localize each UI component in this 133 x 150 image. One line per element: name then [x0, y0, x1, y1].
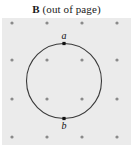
field-out-of-page-dot-icon: [10, 97, 13, 100]
field-out-of-page-dot-icon: [115, 21, 118, 24]
point-label-b: b: [57, 121, 71, 131]
field-out-of-page-dot-icon: [45, 135, 48, 138]
field-out-of-page-dot-icon: [10, 21, 13, 24]
point-label-a: a: [57, 31, 71, 41]
circular-path: [27, 44, 102, 119]
field-out-of-page-dot-icon: [45, 58, 48, 61]
field-out-of-page-dot-icon: [80, 58, 83, 61]
field-out-of-page-dot-icon: [45, 21, 48, 24]
field-out-of-page-dot-icon: [80, 135, 83, 138]
field-out-of-page-dot-icon: [10, 135, 13, 138]
field-out-of-page-dot-icon: [115, 97, 118, 100]
field-out-of-page-dot-icon: [80, 21, 83, 24]
point-marker-a: [62, 42, 65, 45]
field-out-of-page-dot-icon: [80, 97, 83, 100]
field-out-of-page-dot-icon: [10, 58, 13, 61]
figure-container: B (out of page) a b: [0, 0, 133, 150]
field-out-of-page-dot-icon: [45, 97, 48, 100]
field-out-of-page-dot-icon: [115, 135, 118, 138]
field-out-of-page-dot-icon: [115, 58, 118, 61]
